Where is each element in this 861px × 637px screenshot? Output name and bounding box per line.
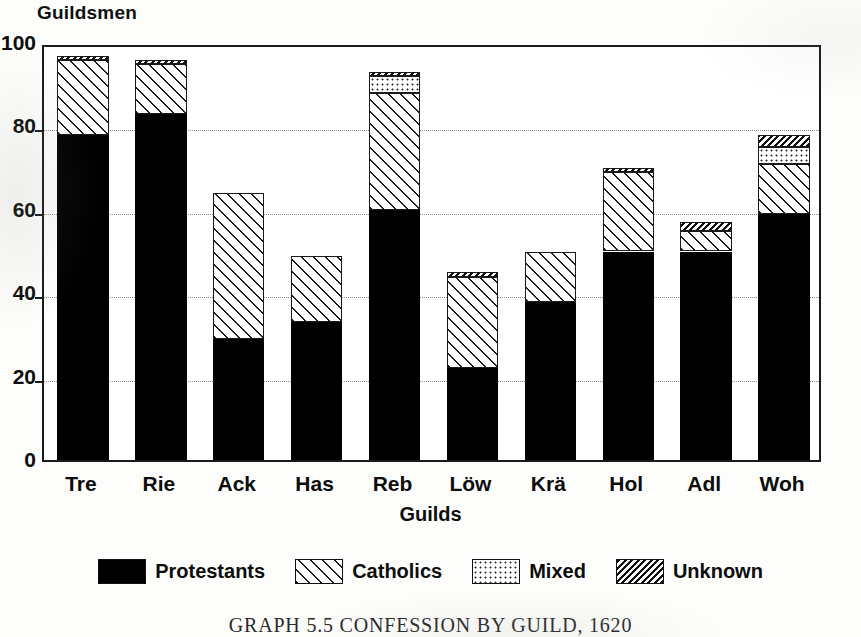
y-axis-tick [35,214,44,216]
y-axis-tick [35,381,44,383]
legend-item-protestants: Protestants [98,559,265,584]
legend-item-mixed: Mixed [472,559,586,584]
bar-segment-catholics [291,256,342,323]
bar-segment-protestants [447,368,498,460]
plot-area [44,47,819,460]
bar-tre [57,43,108,460]
bar-segment-unknown [57,56,108,60]
bar-segment-unknown [447,272,498,276]
bar-segment-protestants [291,322,342,460]
bar-adl [680,43,731,460]
bar-segment-protestants [603,252,654,461]
bar-segment-catholics [447,277,498,369]
bar-segment-protestants [680,252,731,461]
bar-krä [525,43,576,460]
y-axis-label: 80 [0,114,36,138]
x-axis-title: Guilds [0,503,861,526]
x-axis-label-tre: Tre [42,472,120,496]
bar-segment-protestants [369,210,420,460]
bar-segment-catholics [213,193,264,339]
bar-segment-protestants [135,114,186,460]
legend-item-catholics: Catholics [295,559,442,584]
y-axis-tick [35,130,44,132]
y-axis-label: 20 [0,365,36,389]
figure-caption: GRAPH 5.5 CONFESSION BY GUILD, 1620 [0,614,861,637]
bar-segment-catholics [369,93,420,210]
x-axis-label-ack: Ack [198,472,276,496]
bar-segment-catholics [57,60,108,135]
bar-segment-protestants [525,302,576,460]
legend-label-unknown: Unknown [673,560,763,583]
legend-label-mixed: Mixed [529,560,586,583]
y-axis-label: 60 [0,198,36,222]
legend-swatch-protestants [98,559,146,584]
x-axis-label-hol: Hol [587,472,665,496]
bar-has [291,43,342,460]
bar-ack [213,43,264,460]
x-axis-label-has: Has [276,472,354,496]
bar-hol [603,43,654,460]
bar-segment-unknown [369,72,420,76]
bar-löw [447,43,498,460]
bar-segment-unknown [135,60,186,64]
x-axis-label-woh: Woh [743,472,821,496]
y-axis-label: 0 [0,448,36,472]
y-axis-label: 40 [0,281,36,305]
bar-segment-catholics [135,64,186,114]
bar-segment-protestants [213,339,264,460]
y-axis-tick [35,297,44,299]
bar-segment-catholics [680,231,731,252]
bar-segment-mixed [758,147,809,164]
legend-swatch-mixed [472,559,520,584]
legend-item-unknown: Unknown [616,559,763,584]
bar-segment-unknown [758,135,809,148]
bar-rie [135,43,186,460]
bar-segment-mixed [369,76,420,93]
legend-swatch-catholics [295,559,343,584]
y-axis-label: 100 [0,31,36,55]
x-axis-label-reb: Reb [354,472,432,496]
y-axis-title: Guildsmen [37,2,137,24]
bar-segment-unknown [603,168,654,172]
legend-label-catholics: Catholics [352,560,442,583]
bar-woh [758,43,809,460]
chart-legend: ProtestantsCatholicsMixedUnknown [0,559,861,584]
bar-segment-catholics [758,164,809,214]
plot-frame [42,45,821,462]
bar-segment-catholics [525,252,576,302]
x-axis-label-adl: Adl [665,472,743,496]
bar-segment-unknown [680,222,731,230]
bar-segment-catholics [603,172,654,251]
x-axis-label-rie: Rie [120,472,198,496]
bar-segment-protestants [758,214,809,460]
x-axis-label-krä: Krä [509,472,587,496]
x-axis-label-löw: Löw [432,472,510,496]
legend-label-protestants: Protestants [155,560,265,583]
bar-reb [369,43,420,460]
bar-segment-protestants [57,135,108,460]
legend-swatch-unknown [616,559,664,584]
